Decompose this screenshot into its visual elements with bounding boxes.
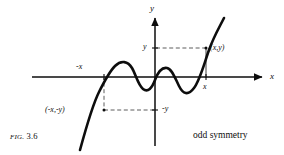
x-axis-label: x [270, 72, 274, 81]
x-tick-label-negative: -x [76, 63, 82, 71]
point-label-lower-left: (-x,-y) [45, 106, 65, 114]
y-axis-label: y [150, 4, 154, 13]
point-marker-upper-right [205, 47, 208, 50]
figure-caption-prefix: FIG. [10, 133, 24, 141]
y-tick-label-positive: y [143, 43, 147, 51]
y-tick-label-negative: -y [162, 105, 168, 113]
x-tick-label-positive: x [203, 83, 207, 91]
symmetry-note: odd symmetry [193, 131, 248, 141]
figure-caption-number: 3.6 [27, 131, 38, 141]
point-label-upper-right: (x,y) [210, 44, 224, 52]
figure-caption: FIG. 3.6 [10, 132, 38, 141]
point-marker-lower-left [103, 109, 106, 112]
figure-container: y x y -y x -x (x,y) (-x,-y) FIG. 3.6 odd… [0, 0, 284, 155]
